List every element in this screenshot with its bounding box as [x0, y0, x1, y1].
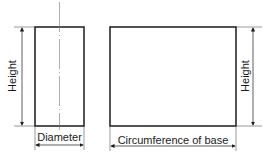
unrolled-rect: [110, 27, 236, 126]
diameter-label: Diameter: [37, 131, 82, 143]
left-height-label: Height: [6, 60, 18, 92]
right-height-label: Height: [239, 60, 251, 92]
cylinder-side-view: Height Diameter: [6, 2, 84, 150]
cylinder-development-diagram: Height Diameter Height Circumference of …: [0, 0, 266, 164]
unrolled-surface: Height Circumference of base: [110, 27, 262, 151]
circumference-label: Circumference of base: [118, 134, 229, 146]
